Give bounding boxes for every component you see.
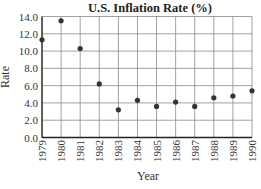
x-tick-label: 1982 (93, 140, 105, 162)
chart-title: U.S. Inflation Rate (%) (88, 1, 212, 15)
data-point (173, 99, 178, 104)
x-tick-label: 1983 (112, 140, 124, 163)
x-tick-label: 1990 (246, 140, 258, 163)
x-tick-label: 1987 (189, 140, 201, 163)
y-tick-label: 2.0 (24, 114, 38, 126)
inflation-chart: U.S. Inflation Rate (%) 0.02.04.06.08.01… (0, 0, 261, 189)
data-point (58, 18, 63, 23)
grid-lines (42, 17, 252, 138)
y-tick-label: 10.0 (19, 45, 39, 57)
data-point (78, 46, 83, 51)
data-point (249, 88, 254, 93)
y-tick-label: 8.0 (24, 62, 38, 74)
x-tick-label: 1988 (208, 140, 220, 163)
data-point (135, 98, 140, 103)
data-point (39, 37, 44, 42)
y-tick-label: 6.0 (24, 80, 38, 92)
x-tick-label: 1980 (55, 140, 67, 163)
x-axis-label: Year (137, 169, 159, 183)
y-axis-ticks: 0.02.04.06.08.010.012.014.0 (19, 11, 39, 144)
x-tick-label: 1981 (74, 140, 86, 162)
data-point (230, 93, 235, 98)
y-tick-label: 4.0 (24, 97, 38, 109)
axes (42, 17, 252, 138)
data-point (154, 104, 159, 109)
data-point (97, 81, 102, 86)
x-tick-label: 1989 (227, 140, 239, 163)
data-points (39, 18, 254, 112)
x-axis-ticks: 1979198019811982198319841985198619871988… (36, 140, 258, 163)
y-axis-label: Rate (0, 66, 12, 88)
data-point (192, 104, 197, 109)
data-point (211, 95, 216, 100)
y-tick-label: 12.0 (19, 28, 39, 40)
x-tick-label: 1984 (131, 140, 143, 163)
x-tick-label: 1985 (151, 140, 163, 163)
data-point (116, 107, 121, 112)
x-tick-label: 1979 (36, 140, 48, 163)
x-tick-label: 1986 (170, 140, 182, 163)
y-tick-label: 14.0 (19, 11, 39, 23)
